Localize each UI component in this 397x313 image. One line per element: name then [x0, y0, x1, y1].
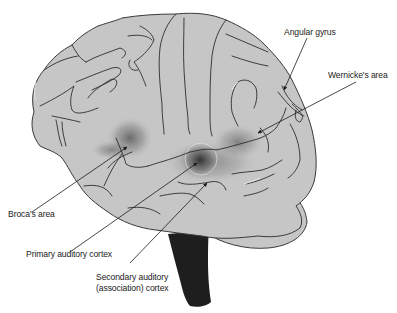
cerebrum [32, 13, 316, 238]
label-angular-gyrus: Angular gyrus [284, 27, 336, 38]
label-secondary-auditory-cortex: Secondary auditory (association) cortex [96, 272, 168, 294]
brain-diagram: Angular gyrus Wernicke's area Broca's ar… [0, 0, 397, 313]
label-secondary-auditory-line2: (association) cortex [96, 283, 168, 294]
label-brocas-area: Broca's area [8, 209, 55, 220]
leader-angular-gyrus [284, 38, 307, 90]
label-secondary-auditory-line1: Secondary auditory [96, 272, 168, 283]
label-primary-auditory-cortex: Primary auditory cortex [26, 249, 112, 260]
brain-illustration [0, 0, 397, 313]
primary-auditory-highlight [178, 140, 222, 180]
brainstem [168, 230, 211, 307]
label-wernickes-area: Wernicke's area [328, 70, 388, 81]
